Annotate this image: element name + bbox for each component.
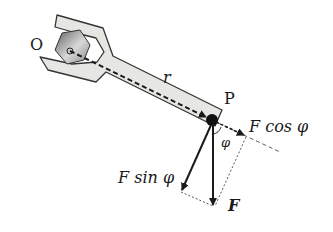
label-radius: r bbox=[163, 68, 172, 87]
label-f-sin: F sin φ bbox=[117, 168, 175, 187]
wrench-torque-diagram: O P r φ F cos φ F sin φ F bbox=[0, 0, 333, 232]
label-origin: O bbox=[30, 35, 43, 54]
label-point: P bbox=[224, 89, 235, 108]
construction-line-2 bbox=[181, 192, 213, 206]
radius-vector bbox=[70, 51, 206, 117]
label-angle: φ bbox=[221, 135, 231, 150]
f-sin-arrow bbox=[182, 125, 211, 190]
angle-arc bbox=[213, 127, 221, 134]
label-f-cos: F cos φ bbox=[248, 117, 309, 136]
label-force: F bbox=[227, 196, 241, 215]
